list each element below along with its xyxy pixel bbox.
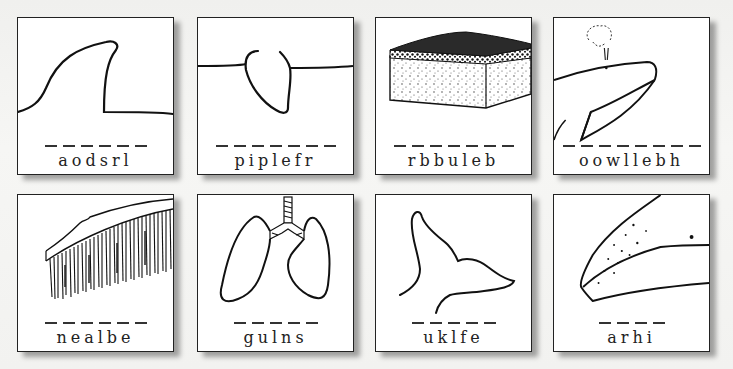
card-fluke: uklfe [375, 194, 532, 352]
card-lungs: gulns [197, 194, 354, 352]
card-blowhole: oowllebh [553, 17, 710, 175]
answer-blanks [554, 145, 709, 147]
scrambled-word: rbbuleb [376, 151, 531, 170]
answer-blanks [198, 322, 353, 324]
scrambled-word: uklfe [376, 328, 531, 347]
card-hair: arhi [553, 194, 710, 352]
scrambled-word: gulns [198, 328, 353, 347]
card-blubber: rbbuleb [375, 17, 532, 175]
answer-blanks [18, 322, 173, 324]
card-dorsal-fin: aodsrl [17, 17, 174, 175]
answer-blanks [376, 145, 531, 147]
answer-blanks [554, 322, 709, 324]
card-flipper: piplefr [197, 17, 354, 175]
scrambled-word: piplefr [198, 151, 353, 170]
scrambled-word: nealbe [18, 328, 173, 347]
answer-blanks [18, 145, 173, 147]
card-baleen: nealbe [17, 194, 174, 352]
scrambled-word: arhi [554, 328, 709, 347]
scrambled-word: aodsrl [18, 151, 173, 170]
answer-blanks [198, 145, 353, 147]
worksheet-page: aodsrl piplefr [0, 0, 733, 369]
answer-blanks [376, 322, 531, 324]
scrambled-word: oowllebh [554, 151, 709, 170]
